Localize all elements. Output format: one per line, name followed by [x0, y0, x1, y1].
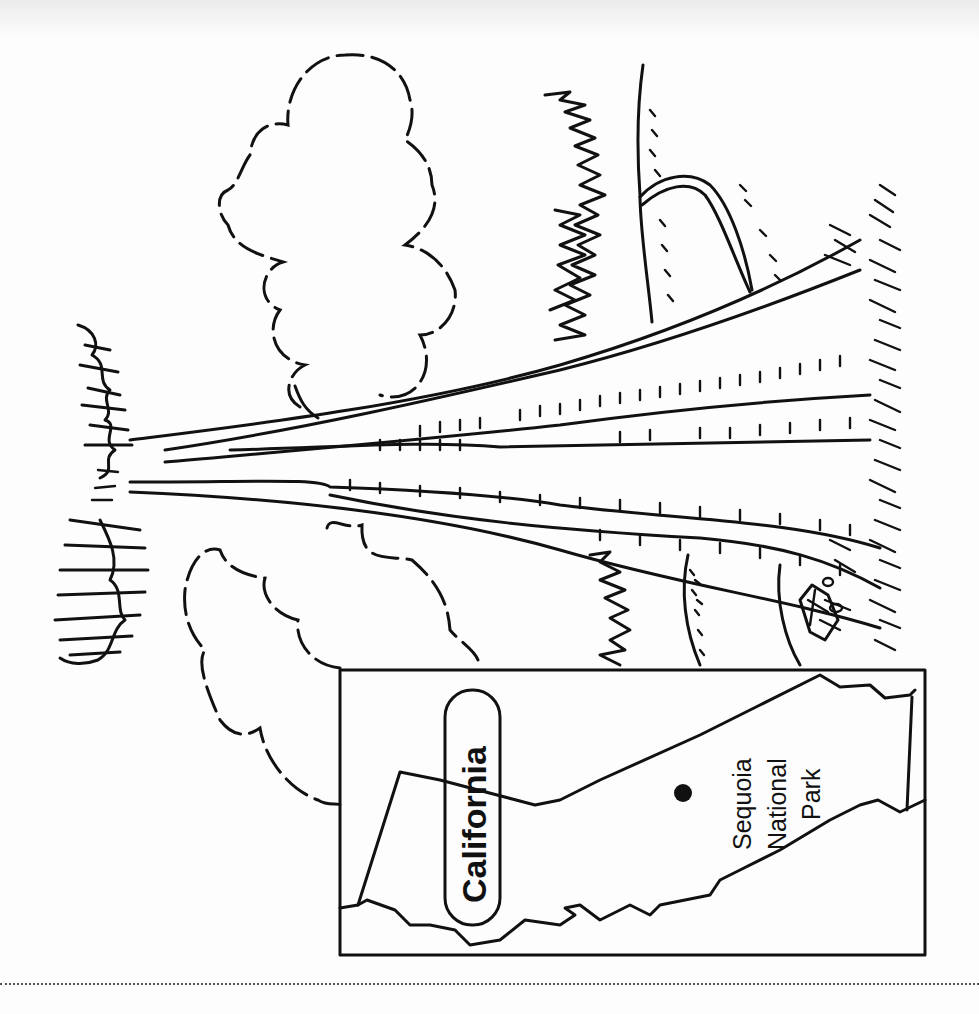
cloud-upper: [219, 55, 455, 407]
dotted-cut-line: [0, 983, 979, 985]
inset-map: California Sequoia National Park: [340, 670, 925, 955]
state-label: California: [455, 745, 493, 903]
road-upper: [638, 65, 781, 322]
road-lower: [684, 555, 800, 665]
worksheet-page: California Sequoia National Park: [0, 0, 979, 1014]
park-label-line-1: Sequoia: [728, 758, 756, 850]
cloud-lower: [185, 523, 478, 808]
tree-crown: [55, 325, 148, 664]
pine-trees-upper: [545, 92, 605, 340]
pine-trees-lower: [590, 552, 630, 665]
sequoia-illustration: California Sequoia National Park: [0, 0, 979, 1014]
park-label-line-2: National: [763, 758, 791, 850]
tree-trunk: [130, 240, 880, 628]
park-label-line-3: Park: [797, 768, 825, 820]
park-location-marker: [674, 784, 692, 802]
